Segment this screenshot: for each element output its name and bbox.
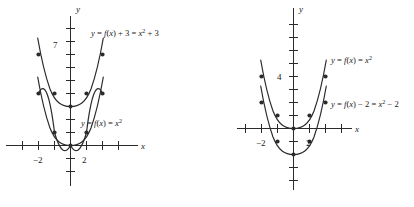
data-point: [52, 91, 56, 95]
chart-panel-left: y x 7 −2 2 y = f(x) + 3 = x2 + 3 y = f(x…: [0, 0, 207, 207]
data-point: [84, 91, 88, 95]
data-point: [36, 52, 40, 56]
data-point: [84, 130, 88, 134]
data-point: [68, 143, 72, 147]
data-point: [323, 74, 327, 78]
x-tick-label-neg2: −2: [256, 138, 266, 148]
data-point: [100, 91, 104, 95]
curve-label-base: y = f(x) = x2: [330, 55, 372, 65]
curve-label-base: y = f(x) = x2: [80, 118, 122, 128]
data-point: [291, 152, 295, 156]
curve-label-shifted-down: y = f(x) − 2 = x2 − 2: [330, 99, 399, 109]
data-point: [275, 113, 279, 117]
data-point: [52, 130, 56, 134]
x-tick-label-neg2: −2: [33, 155, 43, 165]
data-point: [36, 91, 40, 95]
axes-left: [6, 16, 138, 186]
x-tick-label-2: 2: [306, 138, 311, 148]
chart-panel-right: y x 4 −2 2 y = f(x) = x2 y = f(x) − 2 = …: [207, 0, 414, 207]
y-axis-label: y: [75, 4, 80, 14]
y-tick-label-7: 7: [53, 40, 58, 50]
x-tick-label-2: 2: [82, 155, 87, 165]
data-point: [68, 104, 72, 108]
figure-root: y x 7 −2 2 y = f(x) + 3 = x2 + 3 y = f(x…: [0, 0, 414, 207]
y-tick-label-4: 4: [277, 72, 282, 82]
curve-label-shifted-up: y = f(x) + 3 = x2 + 3: [90, 28, 159, 38]
data-point: [307, 113, 311, 117]
data-point: [259, 100, 263, 104]
x-axis-label: x: [140, 141, 145, 151]
data-point: [100, 52, 104, 56]
x-axis-label: x: [354, 124, 359, 134]
data-point: [323, 100, 327, 104]
data-point: [275, 139, 279, 143]
y-axis-label: y: [298, 4, 303, 14]
data-point: [291, 126, 295, 130]
data-point: [259, 74, 263, 78]
